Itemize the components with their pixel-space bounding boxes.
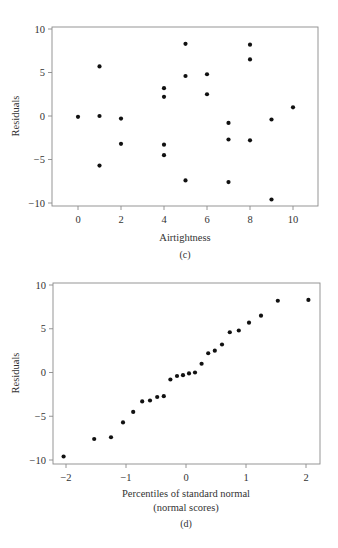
data-point <box>248 57 252 61</box>
data-point <box>97 64 101 68</box>
y-axis-label-d: Residuals <box>10 353 21 394</box>
panel-caption-d: (d) <box>180 518 192 530</box>
data-point <box>237 328 241 332</box>
x-tick-label: 4 <box>161 214 167 225</box>
data-point <box>220 342 224 346</box>
data-point <box>226 121 230 125</box>
y-tick-label: 5 <box>40 67 45 78</box>
data-point <box>193 370 197 374</box>
x-axis-label-c: Airtightness <box>159 232 210 243</box>
data-point <box>162 86 166 90</box>
x-axis-label-d: Percentiles of standard normal <box>122 488 250 499</box>
x-tick-label: 0 <box>75 214 80 225</box>
data-point <box>119 117 123 121</box>
data-point <box>269 197 273 201</box>
data-point <box>206 351 210 355</box>
x-tick-label: −2 <box>60 472 71 483</box>
data-point <box>76 115 80 119</box>
x-tick-label: 6 <box>204 214 209 225</box>
x-tick-label: 10 <box>288 214 299 225</box>
data-point <box>183 178 187 182</box>
data-point <box>213 349 217 353</box>
data-point <box>97 114 101 118</box>
y-axis-c: −10−50510 <box>29 24 52 209</box>
data-point <box>259 314 263 318</box>
x-tick-label: 8 <box>247 214 252 225</box>
data-point <box>183 74 187 78</box>
data-point <box>162 153 166 157</box>
data-point <box>181 373 185 377</box>
panel-d: −10−50510 −2−1012 Residuals Percentiles … <box>10 280 320 531</box>
x-axis-label-d-line2: (normal scores) <box>153 502 219 514</box>
data-point <box>276 299 280 303</box>
plot-frame-d <box>53 283 320 464</box>
data-point <box>140 399 144 403</box>
data-point <box>109 435 113 439</box>
data-point <box>131 410 135 414</box>
y-tick-label: −10 <box>30 455 46 466</box>
y-axis-d: −10−50510 <box>30 280 53 466</box>
y-tick-label: 5 <box>41 323 46 334</box>
data-point <box>175 374 179 378</box>
y-tick-label: 10 <box>35 24 46 35</box>
figure: −10−50510 0246810 Residuals Airtightness… <box>0 0 338 548</box>
x-tick-label: 2 <box>118 214 123 225</box>
data-point <box>62 454 66 458</box>
data-point <box>306 298 310 302</box>
data-point <box>183 42 187 46</box>
x-tick-label: 2 <box>303 472 308 483</box>
x-tick-label: 0 <box>183 472 188 483</box>
data-points-d <box>62 298 311 459</box>
panel-caption-c: (c) <box>179 249 190 261</box>
data-point <box>248 43 252 47</box>
x-tick-label: −1 <box>120 472 131 483</box>
data-point <box>97 163 101 167</box>
data-point <box>121 420 125 424</box>
y-tick-label: 0 <box>41 367 46 378</box>
data-point <box>205 92 209 96</box>
data-point <box>291 105 295 109</box>
data-point <box>200 362 204 366</box>
x-axis-c: 0246810 <box>75 206 298 225</box>
y-tick-label: 10 <box>36 280 47 291</box>
data-point <box>168 377 172 381</box>
data-point <box>226 180 230 184</box>
data-point <box>155 395 159 399</box>
y-tick-label: −10 <box>29 198 45 209</box>
data-point <box>269 117 273 121</box>
data-point <box>228 330 232 334</box>
data-points-c <box>76 42 295 202</box>
data-point <box>119 142 123 146</box>
data-point <box>162 143 166 147</box>
x-tick-label: 1 <box>243 472 248 483</box>
y-axis-label-c: Residuals <box>10 96 21 137</box>
y-tick-label: −5 <box>34 154 45 165</box>
data-point <box>162 95 166 99</box>
data-point <box>187 371 191 375</box>
panel-c: −10−50510 0246810 Residuals Airtightness… <box>10 24 318 262</box>
data-point <box>92 437 96 441</box>
data-point <box>248 138 252 142</box>
data-point <box>226 137 230 141</box>
data-point <box>247 321 251 325</box>
data-point <box>205 72 209 76</box>
y-tick-label: −5 <box>35 411 46 422</box>
x-axis-d: −2−1012 <box>60 464 308 483</box>
data-point <box>148 398 152 402</box>
data-point <box>162 394 166 398</box>
y-tick-label: 0 <box>40 111 45 122</box>
